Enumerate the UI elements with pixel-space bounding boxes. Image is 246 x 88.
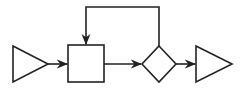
input-triangle <box>13 46 48 82</box>
output-triangle <box>196 46 232 82</box>
flow-diagram <box>0 0 246 88</box>
decision-diamond <box>142 46 176 82</box>
edge-feedback-decision-to-process <box>86 7 159 46</box>
process-box <box>68 45 104 82</box>
